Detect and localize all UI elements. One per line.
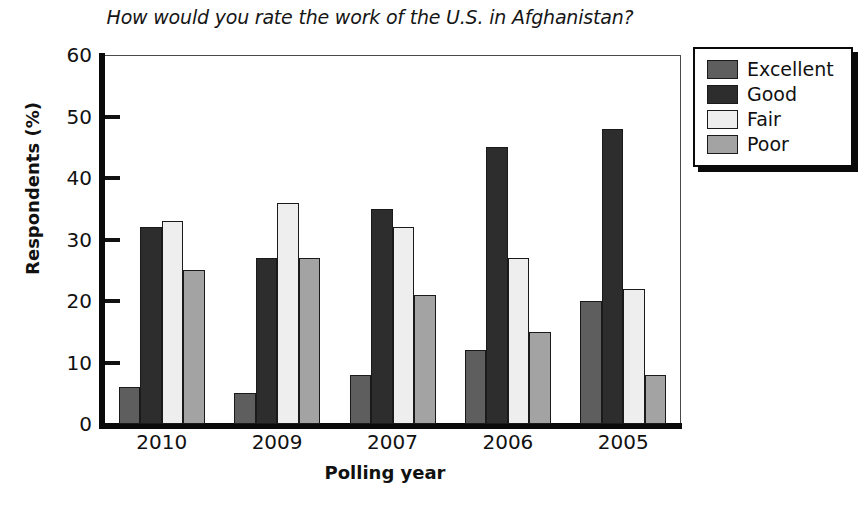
legend-label: Excellent [747,60,834,79]
bar [486,147,508,424]
bar-chart-figure: How would you rate the work of the U.S. … [0,0,864,505]
y-axis-tick-label: 0 [36,414,92,434]
legend-item-good: Good [707,82,851,107]
bar [645,375,667,424]
x-axis-tick-label: 2005 [563,432,683,452]
legend-swatch-good [707,85,738,104]
bar [414,295,436,424]
legend-swatch-fair [707,110,738,129]
bar [371,209,393,424]
bar [508,258,530,424]
bar [529,332,551,424]
bar-series-group [104,55,681,424]
y-axis-tick-label: 30 [36,230,92,250]
x-axis-title: Polling year [90,462,680,483]
y-axis-tick-label: 40 [36,168,92,188]
legend-label: Fair [747,110,781,129]
x-axis-tick-label: 2009 [217,432,337,452]
legend-swatch-excellent [707,60,738,79]
chart-legend: ExcellentGoodFairPoor [693,47,853,167]
legend-swatch-poor [707,135,738,154]
bar [299,258,321,424]
bar [350,375,372,424]
x-axis-tick-label: 2007 [333,432,453,452]
bar [256,258,278,424]
bar [234,393,256,424]
legend-item-fair: Fair [707,107,851,132]
legend-label: Poor [747,135,789,154]
bar [623,289,645,424]
x-axis-tick-label: 2006 [448,432,568,452]
legend-label: Good [747,85,797,104]
chart-title: How would you rate the work of the U.S. … [60,6,680,28]
bar [465,350,487,424]
y-axis-tick-label: 10 [36,353,92,373]
bar [580,301,602,424]
legend-item-excellent: Excellent [707,57,851,82]
bar [602,129,624,424]
bar [140,227,162,424]
x-axis-tick-label: 2010 [102,432,222,452]
legend-item-poor: Poor [707,132,851,157]
bar [393,227,415,424]
bar [183,270,205,424]
bar [162,221,184,424]
bar [119,387,141,424]
y-axis-tick-label: 20 [36,291,92,311]
y-axis-tick-label: 60 [36,45,92,65]
bar [277,203,299,424]
y-axis-tick-label: 50 [36,107,92,127]
